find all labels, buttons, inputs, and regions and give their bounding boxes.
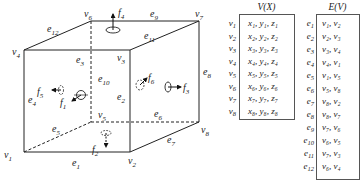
vertex-label-v8: v8: [201, 124, 209, 138]
face-label-f2: f2: [92, 144, 99, 158]
cube-labels: v1v2v3v4v5v6v7v8e1e2e3e4e5e6e7e8e9e10e11…: [4, 7, 211, 171]
edge-table-row-key: e11: [294, 147, 314, 160]
vertex-label-v1: v1: [4, 149, 12, 163]
edge-table-row-key: e1: [294, 17, 314, 30]
edge-table-row-key: e5: [294, 69, 314, 82]
edge-label-e4: e4: [28, 94, 36, 108]
vertex-label-v5: v5: [98, 109, 106, 123]
face-label-f4: f4: [118, 7, 125, 21]
vertex-label-v4: v4: [12, 46, 20, 60]
edge-table-row-value: v₇, v₆: [322, 121, 341, 134]
edge-label-e3: e3: [76, 54, 84, 68]
edge-table-row-key: e7: [294, 95, 314, 108]
face-f6-normal-icon: [136, 78, 147, 90]
vertex-table-row-value: x₈, y₈, z₈: [248, 105, 278, 118]
face-f5-normal-icon: [52, 86, 64, 95]
vertex-table-row-key: v1: [222, 17, 236, 30]
edge-table-row-value: v₈, v₇: [322, 108, 341, 121]
edge-label-e8: e8: [203, 66, 211, 80]
vertex-table-row-key: v2: [222, 30, 236, 43]
edge-table-row-key: e2: [294, 30, 314, 43]
edge-table-row-key: e4: [294, 56, 314, 69]
edge-table-row-value: v₆, v₅: [322, 134, 341, 147]
edge-table-row-value: v₈, v₂: [322, 95, 341, 108]
edge-table-row-key: e6: [294, 82, 314, 95]
vertex-table-row-value: x₁, y₁, z₁: [248, 17, 278, 30]
face-f3-normal-icon: [165, 82, 181, 92]
edge-e5: [24, 122, 91, 152]
vertex-table-row-value: x₇, y₇, z₇: [248, 92, 278, 105]
vertex-table-row-key: v8: [222, 105, 236, 118]
vertex-table-row-key: v6: [222, 80, 236, 93]
vertex-table-row-key: v5: [222, 67, 236, 80]
edge-table-row-value: v₁, v₂: [322, 17, 341, 30]
vertex-table-row-value: x₆, y₆, z₆: [248, 80, 278, 93]
edge-label-e1: e1: [72, 157, 80, 171]
edge-table-row-value: v₅, v₈: [322, 82, 341, 95]
edge-table-row-key: e3: [294, 43, 314, 56]
vertex-label-v3: v3: [117, 52, 125, 66]
vertex-label-v2: v2: [128, 155, 136, 169]
edge-table-row-value: v₆, v₄: [322, 160, 341, 173]
edge-label-e10: e10: [98, 73, 110, 87]
vertex-table-row-value: x₄, y₄, z₄: [248, 55, 278, 68]
face-label-f3: f3: [183, 82, 190, 96]
edge-table-title: E(V): [316, 2, 359, 12]
vertex-table-row-value: x₅, y₅, z₅: [248, 67, 278, 80]
face-f2-normal-icon: [101, 131, 111, 148]
vertex-table-title: V(X): [239, 2, 294, 12]
edge-label-e11: e11: [144, 30, 155, 44]
edge-label-e9: e9: [150, 8, 158, 22]
edge-label-e5: e5: [52, 123, 60, 137]
face-label-f5: f5: [37, 86, 44, 100]
face-f1-normal-icon: [72, 91, 88, 102]
vertex-label-v6: v6: [84, 8, 92, 22]
vertex-table-row-key: v4: [222, 55, 236, 68]
edge-table-row-value: v₂, v₃: [322, 30, 341, 43]
vertex-table-row-value: x₃, y₃, z₃: [248, 42, 278, 55]
vertex-label-v7: v7: [195, 8, 203, 22]
edge-label-e7: e7: [167, 134, 175, 148]
edge-label-e12: e12: [47, 23, 59, 37]
face-label-f6: f6: [148, 72, 155, 86]
edge-table-row-value: v₇, v₃: [322, 147, 341, 160]
face-label-f1: f1: [60, 97, 66, 111]
vertex-table-row-key: v7: [222, 92, 236, 105]
edge-table-row-value: v₃, v₄: [322, 43, 341, 56]
edge-table-row-key: e8: [294, 108, 314, 121]
edge-table-row-key: e12: [294, 160, 314, 173]
edge-table-row-key: e9: [294, 121, 314, 134]
edge-label-e2: e2: [117, 91, 125, 105]
vertex-table-row-value: x₂, y₂, z₂: [248, 30, 278, 43]
face-normal-glyphs: [52, 14, 181, 147]
edge-label-e6: e6: [154, 108, 162, 122]
edge-table-row-key: e10: [294, 134, 314, 147]
edge-e7: [130, 122, 199, 152]
vertex-table-row-key: v3: [222, 42, 236, 55]
edge-table-row-value: v₄, v₁: [322, 56, 341, 69]
edge-table-row-value: v₁, v₅: [322, 69, 341, 82]
edge-e11: [130, 21, 199, 50]
